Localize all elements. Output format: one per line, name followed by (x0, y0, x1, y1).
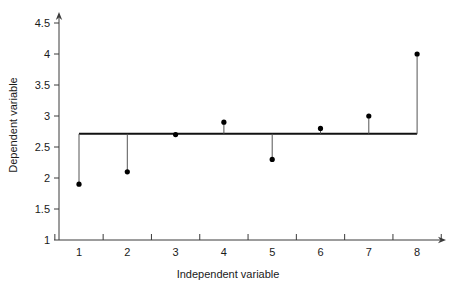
y-tick-label: 3.5 (35, 79, 50, 91)
data-point-marker (173, 132, 178, 137)
x-tick-label: 7 (366, 246, 372, 258)
scatter-plot-with-mean-line: 11.522.533.544.5 12345678 Independent va… (0, 0, 456, 285)
x-tick-label: 6 (317, 246, 323, 258)
residual-stems (79, 54, 417, 184)
x-axis-ticks: 12345678 (55, 234, 441, 258)
x-tick-label: 3 (173, 246, 179, 258)
y-axis-ticks: 11.522.533.544.5 (35, 17, 59, 246)
data-point-marker (366, 113, 371, 118)
data-point-marker (221, 120, 226, 125)
y-tick-label: 2 (44, 172, 50, 184)
y-tick-label: 2.5 (35, 141, 50, 153)
data-point-marker (270, 157, 275, 162)
x-tick-label: 2 (124, 246, 130, 258)
y-tick-label: 3 (44, 110, 50, 122)
x-tick-label: 4 (221, 246, 227, 258)
data-point-marker (318, 126, 323, 131)
chart-figure: 11.522.533.544.5 12345678 Independent va… (0, 0, 456, 285)
x-tick-label: 5 (269, 246, 275, 258)
y-tick-label: 1.5 (35, 203, 50, 215)
y-axis-title: Dependent variable (7, 77, 19, 172)
x-tick-label: 8 (414, 246, 420, 258)
data-point-marker (76, 182, 81, 187)
data-points (76, 51, 419, 186)
y-tick-label: 4 (44, 48, 50, 60)
y-tick-label: 4.5 (35, 17, 50, 29)
x-axis-title: Independent variable (177, 268, 280, 280)
y-tick-label: 1 (44, 234, 50, 246)
x-tick-label: 1 (76, 246, 82, 258)
axes (56, 12, 446, 243)
data-point-marker (125, 169, 130, 174)
data-point-marker (415, 51, 420, 56)
